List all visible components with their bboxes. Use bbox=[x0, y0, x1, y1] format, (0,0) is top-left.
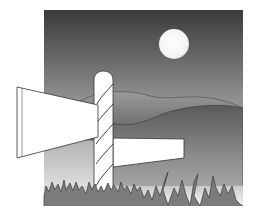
ground-foreground bbox=[40, 206, 250, 224]
illustration-scene bbox=[0, 0, 260, 224]
moon bbox=[159, 29, 189, 59]
signpost-landscape-illustration bbox=[0, 0, 260, 224]
